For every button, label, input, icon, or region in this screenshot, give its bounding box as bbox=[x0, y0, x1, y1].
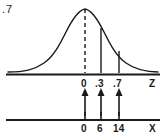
z-axis-name: Z bbox=[149, 79, 155, 89]
z-tick-label-07: .7 bbox=[113, 79, 122, 89]
arrow-14 bbox=[116, 88, 123, 116]
figure-canvas bbox=[0, 0, 165, 139]
x-axis-name: X bbox=[149, 124, 156, 134]
x-tick-label-14: 14 bbox=[113, 124, 125, 134]
z-tick-label-03: .3 bbox=[95, 79, 104, 89]
x-tick-label-0: 0 bbox=[81, 124, 87, 134]
corner-note: .7 bbox=[2, 4, 13, 15]
normal-distribution-figure: .7 0 .3 .7 Z 0 6 14 X bbox=[0, 0, 165, 139]
arrow-0 bbox=[82, 88, 89, 116]
x-tick-label-6: 6 bbox=[97, 124, 103, 134]
arrow-6 bbox=[98, 88, 105, 116]
arrow-group bbox=[82, 88, 123, 116]
z-tick-label-0: 0 bbox=[81, 79, 87, 89]
x-axis-ticks bbox=[85, 112, 119, 120]
normal-curve bbox=[8, 9, 158, 72]
